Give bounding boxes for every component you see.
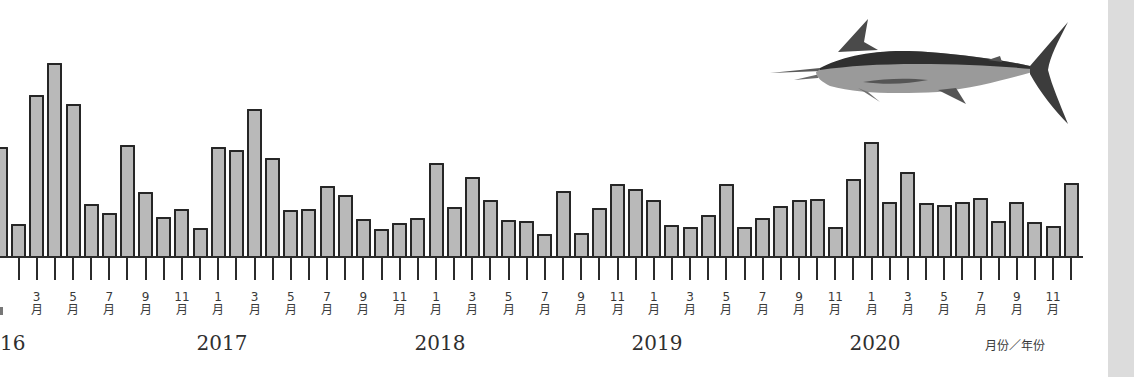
x-tick — [1016, 258, 1018, 280]
bar-2017-11 — [392, 223, 407, 256]
bar-2018-07 — [537, 234, 552, 256]
year-label-2016: 16 — [0, 331, 25, 355]
bar-2019-12 — [846, 179, 861, 256]
x-tick — [689, 258, 691, 280]
x-tick — [1034, 258, 1036, 280]
x-tick — [907, 258, 909, 280]
bar-2020-01 — [864, 142, 879, 256]
bar-2019-09 — [792, 200, 807, 256]
x-axis-unit-label: 月份／年份 — [985, 336, 1045, 353]
x-tick — [90, 258, 92, 280]
bar-2020-02 — [882, 202, 897, 256]
x-tick — [435, 258, 437, 280]
x-tick — [272, 258, 274, 280]
x-tick — [1052, 258, 1054, 280]
bar-2017-01 — [211, 147, 226, 256]
x-tick — [943, 258, 945, 280]
month-label: 5月 — [932, 291, 956, 316]
bar-2018-02 — [447, 207, 462, 256]
month-label: 11月 — [606, 291, 630, 316]
month-label: 1月 — [642, 291, 666, 316]
x-tick — [671, 258, 673, 280]
bar-2017-10 — [374, 229, 389, 256]
month-label: 3月 — [460, 291, 484, 316]
month-label: 3月 — [25, 291, 49, 316]
x-tick — [489, 258, 491, 280]
bar-2018-08 — [556, 191, 571, 256]
x-tick — [707, 258, 709, 280]
year-label-2017: 2017 — [182, 331, 262, 355]
x-tick — [925, 258, 927, 280]
month-label: 1月 — [860, 291, 884, 316]
bar-2018-12 — [628, 189, 643, 256]
bar-2016-11 — [174, 209, 189, 256]
bar-2018-05 — [501, 220, 516, 256]
month-label: 3月 — [678, 291, 702, 316]
bar-2016-02 — [11, 224, 26, 256]
x-tick — [725, 258, 727, 280]
x-tick — [126, 258, 128, 280]
month-label: 3月 — [243, 291, 267, 316]
x-tick — [308, 258, 310, 280]
month-label: 9月 — [787, 291, 811, 316]
month-label: 5月 — [279, 291, 303, 316]
x-tick — [235, 258, 237, 280]
x-tick — [762, 258, 764, 280]
bar-2016-08 — [120, 145, 135, 256]
bar-2019-06 — [737, 227, 752, 256]
bar-2020-06 — [955, 202, 970, 256]
bar-2017-05 — [283, 210, 298, 256]
bar-2018-11 — [610, 184, 625, 256]
month-label: 1月 — [206, 291, 230, 316]
x-tick — [471, 258, 473, 280]
bar-2016-03 — [29, 95, 44, 256]
x-tick — [217, 258, 219, 280]
x-tick — [381, 258, 383, 280]
bar-2020-05 — [937, 205, 952, 256]
month-label: 9月 — [569, 291, 593, 316]
bar-2020-10 — [1027, 222, 1042, 256]
month-label: 11月 — [170, 291, 194, 316]
x-tick — [18, 258, 20, 280]
bar-2019-11 — [828, 227, 843, 256]
x-tick — [562, 258, 564, 280]
x-tick — [816, 258, 818, 280]
year-label-2018: 2018 — [400, 331, 480, 355]
bar-2019-07 — [755, 218, 770, 256]
bar-2019-01 — [646, 200, 661, 256]
x-tick — [889, 258, 891, 280]
bar-2018-01 — [429, 163, 444, 256]
month-label: 7月 — [533, 291, 557, 316]
bar-2017-08 — [338, 195, 353, 256]
x-tick — [508, 258, 510, 280]
bar-2019-10 — [810, 199, 825, 256]
month-label: 7月 — [751, 291, 775, 316]
x-tick — [199, 258, 201, 280]
month-label: 7月 — [315, 291, 339, 316]
bar-2020-04 — [919, 203, 934, 256]
left-edge-mark — [0, 307, 3, 315]
bar-2017-12 — [410, 218, 425, 256]
bar-2019-02 — [664, 225, 679, 256]
x-tick — [453, 258, 455, 280]
x-tick — [54, 258, 56, 280]
marlin-fish-illustration — [768, 14, 1084, 126]
x-tick — [653, 258, 655, 280]
bar-2019-04 — [701, 215, 716, 256]
bar-2017-02 — [229, 150, 244, 256]
x-tick — [580, 258, 582, 280]
bar-2020-11 — [1046, 226, 1061, 256]
bar-2020-09 — [1009, 202, 1024, 256]
x-tick — [544, 258, 546, 280]
x-tick — [108, 258, 110, 280]
year-label-2019: 2019 — [617, 331, 697, 355]
x-tick — [145, 258, 147, 280]
bar-2018-10 — [592, 208, 607, 256]
x-tick — [834, 258, 836, 280]
bar-2016-01 — [0, 147, 8, 256]
x-tick — [852, 258, 854, 280]
bar-2020-08 — [991, 221, 1006, 256]
year-label-2020: 2020 — [835, 331, 915, 355]
month-label: 11月 — [388, 291, 412, 316]
bar-2016-05 — [66, 104, 81, 256]
